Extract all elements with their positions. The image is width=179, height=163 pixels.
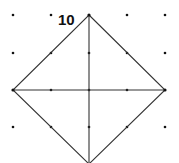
diamond-shape bbox=[13, 15, 165, 163]
dot-grid-figure bbox=[0, 0, 179, 163]
figure-number-label: 10 bbox=[58, 12, 75, 27]
